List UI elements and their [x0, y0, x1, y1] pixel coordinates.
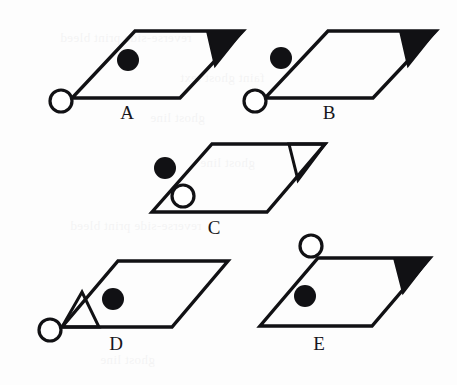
option-e-filled-dot-inside: [294, 285, 316, 307]
puzzle-sheet: reverse-side print bleedfaint ghost text…: [0, 0, 457, 385]
option-e-label[interactable]: E: [305, 334, 333, 353]
option-e-corner-triangle-filled: [394, 258, 430, 293]
option-e-open-circle-outside-top: [300, 235, 322, 257]
option-e-figure[interactable]: [0, 0, 457, 385]
